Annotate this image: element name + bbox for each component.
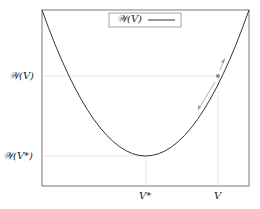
- current-point: [216, 74, 220, 78]
- arrow-head-up: [221, 58, 225, 63]
- chart-plot: [0, 0, 260, 209]
- x-tick-v: V: [214, 190, 221, 201]
- legend-label: 𝒲(V): [117, 13, 142, 25]
- x-tick-vstar: V*: [139, 190, 151, 201]
- y-tick-wvstar: 𝒲(V*): [3, 150, 33, 162]
- y-tick-wv: 𝒲(V): [9, 70, 34, 82]
